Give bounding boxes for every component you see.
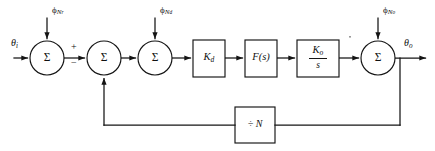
input-signal-label: θi (11, 38, 18, 50)
block-label-loop-filter: F(s) (245, 52, 277, 63)
scan-speck (349, 36, 351, 38)
vco-numerator: Ko (297, 44, 339, 57)
kd-subscript: d (211, 55, 215, 64)
phi-nr-subscript2: r (61, 9, 63, 15)
diagram-canvas (0, 0, 435, 151)
plus-sign-label: + (71, 42, 77, 52)
input-theta-subscript: i (16, 42, 18, 50)
output-theta-subscript: o (409, 42, 413, 50)
block-label-vco: Ko s (297, 44, 339, 71)
phi-no-subscript2: o (392, 9, 395, 15)
fraction-bar (309, 58, 327, 59)
pll-block-diagram: θi θo ϕNr ϕNd ϕNo Σ Σ Σ Σ + − Kd F(s) Ko… (0, 0, 435, 151)
phi-nd-subscript2: d (169, 9, 172, 15)
block-label-divider: ÷ N (235, 119, 275, 129)
minus-sign-label: − (71, 58, 77, 68)
vco-denominator: s (297, 61, 339, 71)
kd-glyph: K (204, 51, 211, 62)
sum-junction-4-symbol: Σ (368, 52, 388, 64)
noise-input-label-phi-nd: ϕNd (160, 6, 172, 16)
sum-junction-3-symbol: Σ (145, 52, 165, 64)
noise-input-label-phi-no: ϕNo (383, 6, 395, 16)
ko-glyph: K (313, 44, 320, 55)
sum-junction-2-symbol: Σ (94, 52, 114, 64)
noise-input-label-phi-nr: ϕNr (52, 6, 64, 16)
sum-junction-1-symbol: Σ (37, 52, 57, 64)
output-signal-label: θo (404, 38, 413, 50)
block-label-phase-detector: Kd (193, 52, 225, 63)
ko-subscript: o (320, 48, 324, 57)
